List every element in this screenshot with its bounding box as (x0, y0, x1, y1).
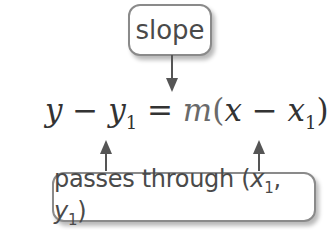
eq-y1: y (108, 92, 126, 128)
eq-minus: − (63, 92, 109, 128)
eq-slope-m: m (183, 92, 212, 128)
point-slope-equation: y − y1 = m(x − x1) (45, 92, 285, 142)
eq-y: y (45, 92, 63, 128)
passes-through-label: passes through (x1, y1) (54, 165, 314, 229)
eq-x1-sub: 1 (305, 112, 316, 133)
eq-equals: = (137, 92, 183, 128)
eq-y1-sub: 1 (126, 112, 137, 133)
eq-open-paren: ( (212, 92, 224, 128)
eq-x1: x (288, 92, 305, 128)
eq-close-paren: ) (316, 92, 328, 128)
eq-x: x (224, 92, 241, 128)
eq-minus: − (242, 92, 288, 128)
passes-through-label-box: passes through (x1, y1) (52, 172, 316, 222)
arrow-down-icon (166, 55, 178, 92)
